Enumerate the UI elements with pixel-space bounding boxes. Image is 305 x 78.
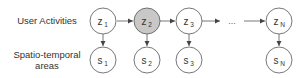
svg-text:z: z — [98, 16, 103, 27]
svg-text:3: 3 — [190, 21, 194, 28]
svg-text:z: z — [184, 16, 189, 27]
node-s1: s 1 — [90, 47, 116, 73]
svg-text:s: s — [98, 55, 103, 66]
node-z2-observed: z 2 — [134, 8, 160, 34]
svg-text:1: 1 — [104, 21, 108, 28]
node-zN: z N — [266, 8, 292, 34]
svg-text:2: 2 — [148, 60, 152, 67]
node-z3: z 3 — [176, 8, 202, 34]
svg-text:1: 1 — [104, 60, 108, 67]
svg-text:N: N — [280, 60, 285, 67]
svg-text:z: z — [142, 16, 147, 27]
svg-text:s: s — [142, 55, 147, 66]
svg-text:z: z — [274, 16, 279, 27]
ellipsis: ... — [228, 16, 236, 26]
node-s3: s 3 — [176, 47, 202, 73]
svg-text:3: 3 — [190, 60, 194, 67]
emission-edges — [103, 34, 279, 46]
svg-text:N: N — [280, 21, 285, 28]
svg-text:s: s — [274, 55, 279, 66]
graphical-model-diagram: z 1 z 2 z 3 ... z N s 1 s 2 s 3 s N — [0, 0, 305, 78]
svg-text:s: s — [184, 55, 189, 66]
node-z1: z 1 — [90, 8, 116, 34]
svg-text:2: 2 — [148, 21, 152, 28]
node-s2: s 2 — [134, 47, 160, 73]
node-sN: s N — [266, 47, 292, 73]
